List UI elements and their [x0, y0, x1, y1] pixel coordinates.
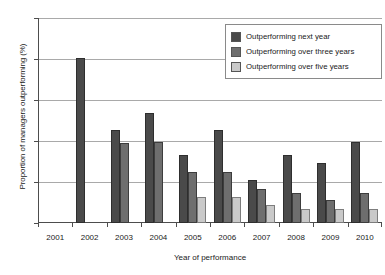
y-axis-title: Proportion of managers outperforming (%)	[18, 32, 27, 202]
x-tick-mark-2009	[313, 223, 314, 227]
bar-2006-series-1	[223, 172, 232, 223]
x-tick-label-2008: 2008	[279, 233, 313, 242]
bar-chart: Proportion of managers outperforming (%)…	[0, 0, 385, 275]
x-tick-mark-2001	[38, 223, 39, 227]
bar-2002-series-0	[76, 58, 85, 223]
bar-2007-series-0	[248, 180, 257, 223]
legend-swatch-icon-series-2	[231, 62, 241, 72]
bar-2004-series-0	[145, 113, 154, 223]
legend-label-1: Outperforming over three years	[246, 47, 354, 56]
x-tick-mark-2005	[176, 223, 177, 227]
legend: Outperforming next year Outperforming ov…	[225, 24, 382, 79]
bar-2010-series-0	[351, 142, 360, 223]
x-tick-mark-2008	[279, 223, 280, 227]
legend-swatch-icon-series-1	[231, 47, 241, 57]
legend-label-2: Outperforming over five years	[246, 62, 349, 71]
x-tick-mark-end	[381, 223, 382, 227]
legend-item-1: Outperforming over three years	[231, 44, 376, 59]
x-tick-label-2002: 2002	[72, 233, 106, 242]
x-tick-mark-2006	[210, 223, 211, 227]
bar-2003-series-1	[120, 143, 129, 223]
bar-2005-series-0	[179, 155, 188, 223]
x-tick-mark-2004	[141, 223, 142, 227]
x-tick-label-2007: 2007	[244, 233, 278, 242]
bar-2009-series-2	[335, 209, 344, 223]
bar-2006-series-2	[232, 197, 241, 223]
bar-group-2003: 2003	[107, 18, 141, 223]
bar-2008-series-1	[292, 193, 301, 223]
bar-2010-series-1	[360, 193, 369, 223]
legend-item-0: Outperforming next year	[231, 29, 376, 44]
bar-2007-series-1	[257, 189, 266, 223]
bar-2008-series-2	[301, 209, 310, 223]
legend-label-0: Outperforming next year	[246, 32, 330, 41]
x-tick-label-2003: 2003	[107, 233, 141, 242]
x-tick-mark-2007	[244, 223, 245, 227]
x-tick-label-2010: 2010	[348, 233, 382, 242]
bar-2009-series-0	[317, 163, 326, 223]
bar-2007-series-2	[266, 205, 275, 223]
legend-item-2: Outperforming over five years	[231, 59, 376, 74]
bar-2008-series-0	[283, 155, 292, 223]
x-axis-title: Year of performance	[38, 253, 382, 262]
legend-swatch-icon-series-0	[231, 32, 241, 42]
bar-group-2005: 2005	[176, 18, 210, 223]
bar-2009-series-1	[326, 200, 335, 223]
bar-group-2004: 2004	[141, 18, 175, 223]
bar-2003-series-0	[111, 130, 120, 223]
bar-2006-series-0	[214, 130, 223, 223]
x-tick-mark-2003	[107, 223, 108, 227]
x-tick-label-2005: 2005	[176, 233, 210, 242]
x-tick-mark-2002	[72, 223, 73, 227]
x-tick-label-2006: 2006	[210, 233, 244, 242]
bar-2004-series-1	[154, 142, 163, 223]
bar-2010-series-2	[369, 209, 378, 223]
x-tick-label-2001: 2001	[38, 233, 72, 242]
bar-2005-series-2	[197, 197, 206, 223]
x-tick-label-2009: 2009	[313, 233, 347, 242]
x-tick-mark-2010	[348, 223, 349, 227]
bar-group-2001: 2001	[38, 18, 72, 223]
bar-group-2002: 2002	[72, 18, 106, 223]
bar-2005-series-1	[188, 172, 197, 223]
x-tick-label-2004: 2004	[141, 233, 175, 242]
